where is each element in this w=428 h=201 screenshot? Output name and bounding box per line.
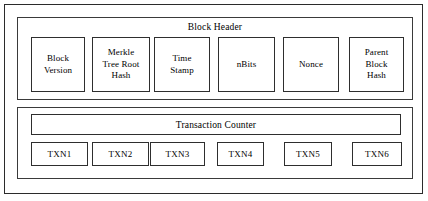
- transaction-label: TXN1: [48, 149, 72, 160]
- field-parent-block-hash: Parent Block Hash: [349, 37, 404, 92]
- transaction-box-txn1: TXN1: [31, 142, 88, 166]
- transaction-label: TXN4: [229, 149, 253, 160]
- transaction-box-txn6: TXN6: [352, 142, 402, 166]
- transaction-label: TXN5: [296, 149, 320, 160]
- block-outer-frame: Block Header Block Version Merkle Tree R…: [4, 4, 423, 194]
- transaction-box-txn3: TXN3: [150, 142, 205, 166]
- transaction-box-txn4: TXN4: [217, 142, 264, 166]
- transaction-box-txn2: TXN2: [92, 142, 149, 166]
- block-structure-diagram: Block Header Block Version Merkle Tree R…: [0, 0, 428, 201]
- transaction-label: TXN6: [365, 149, 389, 160]
- field-nonce-label: Nonce: [297, 59, 325, 71]
- field-block-version: Block Version: [31, 37, 85, 92]
- field-nonce: Nonce: [283, 37, 339, 92]
- field-nbits-label: nBits: [235, 59, 259, 71]
- field-time-stamp: Time Stamp: [154, 37, 210, 92]
- field-merkle-tree-root-hash: Merkle Tree Root Hash: [92, 37, 150, 92]
- transaction-label: TXN3: [166, 149, 190, 160]
- field-block-version-label: Block Version: [42, 53, 74, 76]
- field-time-stamp-label: Time Stamp: [168, 53, 196, 76]
- field-parent-block-hash-label: Parent Block Hash: [363, 47, 391, 82]
- transaction-label: TXN2: [109, 149, 133, 160]
- block-header-title: Block Header: [18, 21, 412, 33]
- transactions-panel: Transaction Counter TXN1 TXN2 TXN3 TXN4 …: [17, 107, 413, 179]
- field-merkle-tree-root-hash-label: Merkle Tree Root Hash: [101, 47, 142, 82]
- field-nbits: nBits: [218, 37, 275, 92]
- transaction-box-txn5: TXN5: [284, 142, 332, 166]
- transaction-counter-bar: Transaction Counter: [31, 114, 401, 135]
- transaction-counter-label: Transaction Counter: [176, 119, 256, 131]
- block-header-panel: Block Header Block Version Merkle Tree R…: [17, 17, 413, 100]
